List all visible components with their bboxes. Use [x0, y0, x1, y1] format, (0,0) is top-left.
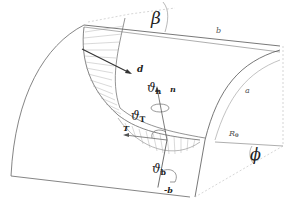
label-R0: R0	[229, 130, 239, 139]
inner-arc-a	[195, 50, 280, 197]
diagram-canvas	[0, 0, 289, 206]
theta-b-subscript: b	[161, 168, 166, 177]
theta-n-symbol: ϑ	[147, 81, 156, 95]
label-b-length: b	[216, 27, 221, 35]
label-d-vector: d	[137, 65, 143, 74]
R0-subscript: 0	[235, 132, 239, 138]
T-arrowhead	[123, 133, 129, 137]
label-phi: ϕ	[250, 147, 261, 163]
top-edge-lower	[84, 27, 280, 52]
d-vector	[82, 49, 130, 73]
theta-b-symbol: ϑ	[152, 162, 161, 176]
ribbon-right-edge	[115, 18, 205, 138]
label-a-radius: a	[245, 87, 250, 95]
top-dashed	[88, 8, 175, 22]
label-theta-n: ϑn	[147, 82, 161, 96]
top-edge-upper	[84, 25, 280, 46]
inner-arc-a2	[215, 60, 280, 140]
label-n-vector: n	[170, 85, 176, 93]
outer-surface-arc	[11, 25, 84, 176]
phi-dashed-1	[195, 146, 283, 197]
theta-T-symbol: ϑ	[131, 109, 140, 123]
r0-line	[215, 142, 283, 146]
label-theta-T: ϑT	[131, 110, 145, 124]
d-arrowhead	[125, 69, 132, 74]
theta-n-subscript: n	[156, 87, 162, 96]
label-T-vector: T	[123, 124, 129, 132]
label-minus-b-vector: -b	[164, 186, 173, 194]
label-beta: β	[151, 10, 161, 27]
beta-arc	[163, 2, 168, 32]
label-theta-b: ϑb	[152, 163, 166, 177]
theta-T-subscript: T	[140, 115, 146, 124]
